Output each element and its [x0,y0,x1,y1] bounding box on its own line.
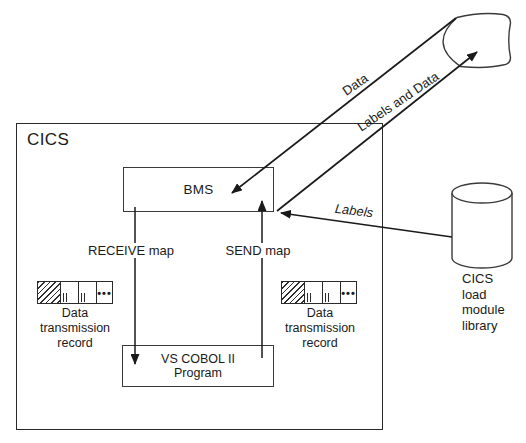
record-tick [325,293,326,302]
send-map-label: SEND map [221,243,295,258]
terminal-display-icon [443,14,510,68]
cics-load-module-library-label: CICS load module library [462,271,505,333]
record-hatch-segment [282,282,305,303]
data-transmission-record-icon: ••• [37,281,113,304]
record-divider [78,282,79,303]
data-transmission-record-icon: ••• [281,281,357,304]
data-transmission-record-label: Data transmission record [25,306,125,351]
record-tick [328,293,329,302]
record-tick [66,293,67,302]
disk-cylinder-body [452,193,512,268]
record-tick [84,293,85,302]
record-ellipsis: ••• [341,282,356,303]
arrow-data-line [232,18,456,193]
record-divider [322,282,323,303]
record-tick [63,293,64,302]
receive-map-label: RECEIVE map [85,243,177,258]
disk-cylinder-top [452,183,512,203]
bms-flow-diagram: CICS BMS VS COBOL II Program RECEIVE map [0,0,526,443]
record-tick [310,293,311,302]
record-tick [307,293,308,302]
data-transmission-record-label: Data transmission record [270,306,370,351]
record-tick [81,293,82,302]
record-hatch-segment [38,282,61,303]
record-ellipsis: ••• [97,282,112,303]
